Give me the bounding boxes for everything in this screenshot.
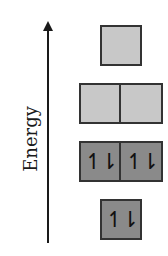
orbital-box	[79, 83, 121, 124]
orbital-box	[100, 25, 142, 66]
orbital-box: ↿⇂	[79, 141, 121, 182]
electron-pair-icon: ↿⇂	[106, 209, 137, 231]
energy-level-upper-middle	[79, 83, 163, 124]
orbital-box: ↿⇂	[121, 141, 163, 182]
electron-pair-icon: ↿⇂	[126, 151, 157, 173]
energy-level-lower-middle: ↿⇂ ↿⇂	[79, 141, 163, 182]
energy-level-bottom: ↿⇂	[100, 199, 142, 240]
energy-axis	[47, 28, 49, 243]
energy-level-top	[100, 25, 142, 66]
orbital-box: ↿⇂	[100, 199, 142, 240]
energy-axis-label: Energy	[20, 106, 41, 172]
electron-pair-icon: ↿⇂	[85, 151, 116, 173]
orbital-box	[121, 83, 163, 124]
